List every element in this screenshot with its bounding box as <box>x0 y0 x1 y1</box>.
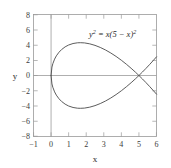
y-tick-label: 6 <box>26 26 30 35</box>
x-tick-label: 0 <box>49 140 53 149</box>
x-tick-label: 6 <box>154 140 158 149</box>
y-tick-label: 4 <box>26 41 30 50</box>
y-tick-label: 2 <box>26 56 30 65</box>
x-tick-label: −1 <box>29 140 38 149</box>
x-tick-label: 5 <box>137 140 141 149</box>
y-tick-label: 0 <box>26 71 30 80</box>
y-axis-title: y <box>13 71 18 81</box>
equation-rhs-exponent: 2 <box>133 29 136 35</box>
x-tick-label: 3 <box>102 140 106 149</box>
x-tick-label: 2 <box>84 140 88 149</box>
equation-rhs-base: x(5 − x) <box>105 29 134 39</box>
y-tick-label: −6 <box>21 117 30 126</box>
y-tick-label: −2 <box>21 87 30 96</box>
x-tick-label: 1 <box>67 140 71 149</box>
plot-figure: 8 6 4 2 0 −2 −4 −6 −8 −1 0 1 2 3 4 5 6 y… <box>0 0 171 168</box>
x-axis-title: x <box>93 154 98 164</box>
equation-annotation: y2 = x(5 − x)2 <box>88 29 136 39</box>
equation-equals: = <box>96 29 106 39</box>
y-tick-label: 8 <box>26 11 30 20</box>
x-tick-label: 4 <box>119 140 123 149</box>
y-tick-label: −4 <box>21 102 30 111</box>
